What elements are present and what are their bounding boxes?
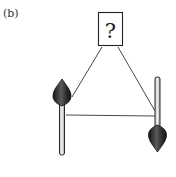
bond-left-right <box>66 115 155 116</box>
bond-box-right <box>118 47 155 111</box>
question-box: ? <box>99 13 123 46</box>
bond-lines <box>66 47 155 116</box>
bond-box-left <box>72 47 102 97</box>
spin-up-arrow-icon <box>53 79 71 155</box>
question-mark: ? <box>105 19 116 43</box>
frustrated-spin-diagram: ? <box>0 0 176 177</box>
spin-down-arrow-icon <box>149 77 167 152</box>
